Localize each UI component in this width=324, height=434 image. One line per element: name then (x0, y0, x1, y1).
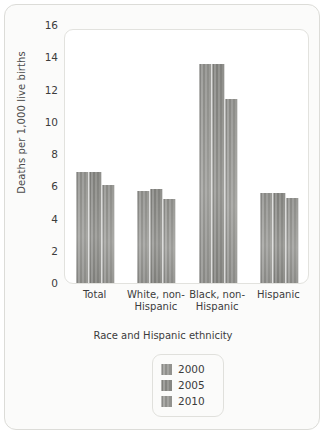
y-axis-ticks: 1614121086420 (31, 5, 58, 430)
chart-legend: 200020052010 (152, 354, 224, 417)
y-tick-label: 2 (36, 246, 58, 257)
y-tick-label: 14 (36, 52, 58, 63)
y-tick-label: 10 (36, 117, 58, 128)
chart-figure: Deaths per 1,000 live births 16141210864… (4, 4, 320, 430)
bar (212, 64, 225, 283)
legend-swatch-icon (161, 380, 172, 391)
legend-swatch-icon (161, 364, 172, 375)
legend-label: 2000 (178, 364, 205, 375)
plot-area (64, 29, 309, 284)
bar-group (65, 28, 126, 283)
bar (163, 199, 176, 283)
bar-group (249, 28, 310, 283)
legend-label: 2010 (178, 396, 205, 407)
bar-group (188, 28, 249, 283)
bar (137, 191, 150, 283)
x-tick-label-line: Hispanic (174, 301, 260, 313)
legend-swatch-icon (161, 396, 172, 407)
legend-item[interactable]: 2010 (161, 393, 215, 409)
legend-item[interactable]: 2005 (161, 377, 215, 393)
x-tick-label-line: Hispanic (235, 289, 320, 301)
bar (260, 193, 273, 283)
y-tick-label: 16 (36, 20, 58, 31)
bar (102, 185, 115, 283)
y-tick-label: 8 (36, 149, 58, 160)
y-tick-label: 0 (36, 278, 58, 289)
x-tick-label: Hispanic (235, 289, 320, 301)
y-axis-title: Deaths per 1,000 live births (16, 23, 27, 223)
bar (89, 172, 102, 283)
bar (150, 189, 163, 283)
y-tick-label: 12 (36, 84, 58, 95)
bar (273, 193, 286, 283)
y-tick-label: 6 (36, 181, 58, 192)
y-tick-label: 4 (36, 213, 58, 224)
legend-label: 2005 (178, 380, 205, 391)
bars-layer (65, 30, 308, 283)
bar (286, 198, 299, 283)
bar (199, 64, 212, 283)
bar (76, 172, 89, 283)
x-axis-title: Race and Hispanic ethnicity (5, 330, 320, 341)
legend-item[interactable]: 2000 (161, 361, 215, 377)
bar-group (126, 28, 187, 283)
bar (225, 99, 238, 283)
